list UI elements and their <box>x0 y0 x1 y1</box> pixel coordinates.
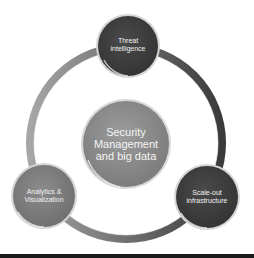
scale-line-2: infrastructure <box>187 197 228 205</box>
threat-line-2: intelligence <box>110 45 145 53</box>
bottom-border-rule <box>0 254 254 258</box>
center-line-3: and big data <box>96 150 157 162</box>
center-line-1: Security <box>106 126 146 138</box>
threat-node-label: Threat intelligence <box>98 32 158 58</box>
scale-node-label: Scale-out infrastructure <box>177 184 237 210</box>
threat-line-1: Threat <box>118 37 138 45</box>
center-node-label: Security Management and big data <box>84 124 168 164</box>
cycle-diagram: Threat intelligence Security Management … <box>0 0 254 258</box>
center-line-2: Management <box>94 138 158 150</box>
analytics-line-1: Analytics & <box>27 188 62 196</box>
analytics-node-label: Analytics & Visualization <box>14 183 74 209</box>
scale-line-1: Scale-out <box>192 189 222 197</box>
analytics-line-2: Visualization <box>24 196 63 204</box>
